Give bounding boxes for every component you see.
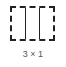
- grid-preview-icon: [10, 6, 55, 41]
- grid-cell: [40, 8, 53, 39]
- layout-option-label: 3 × 1: [0, 49, 66, 59]
- grid-cell: [26, 8, 40, 39]
- grid-cell: [12, 8, 26, 39]
- layout-option-3x1[interactable]: 3 × 1: [0, 0, 66, 67]
